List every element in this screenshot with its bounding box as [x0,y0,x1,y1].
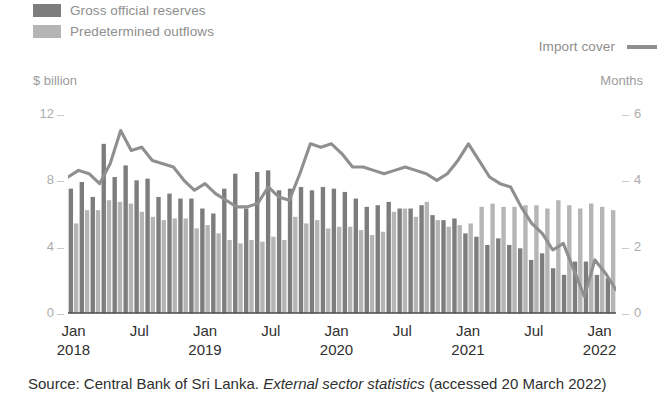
y-axis-right-tick-label: 2 [634,239,660,254]
bar-predetermined-outflows [162,220,166,313]
legend-label-predetermined-outflows: Predetermined outflows [70,24,214,39]
bar-gross-official-reserves [474,237,478,313]
bar-predetermined-outflows [556,200,560,313]
chart-legend: Gross official reserves Predetermined ou… [0,0,671,62]
bar-predetermined-outflows [74,223,78,313]
bar-gross-official-reserves [80,182,84,313]
y-axis-left-tick-mark [57,248,64,249]
bar-gross-official-reserves [452,218,456,313]
bar-gross-official-reserves [419,205,423,313]
y-axis-right-tick-mark [622,314,629,315]
legend-label-gross-official-reserves: Gross official reserves [70,3,206,18]
y-axis-left-title: $ billion [33,73,77,88]
bar-predetermined-outflows [490,204,494,313]
x-axis-tick-month: Jan [43,322,103,339]
bar-gross-official-reserves [91,197,95,313]
x-axis-tick-label: Jan2022 [570,322,630,358]
bar-gross-official-reserves [233,174,237,313]
bar-predetermined-outflows [447,227,451,313]
bar-gross-official-reserves [200,209,204,313]
y-axis-left-tick-label: 4 [28,239,54,254]
legend-item-import-cover: Import cover [539,39,657,54]
bar-gross-official-reserves [332,189,336,313]
legend-swatch-gross-official-reserves-icon [33,4,61,17]
bar-predetermined-outflows [271,237,275,313]
source-note: Source: Central Bank of Sri Lanka. Exter… [28,374,658,395]
bar-predetermined-outflows [523,205,527,313]
bar-predetermined-outflows [458,225,462,313]
bar-predetermined-outflows [249,240,253,313]
y-axis-right-tick-label: 6 [634,106,660,121]
x-axis-tick-label: Jul [241,322,301,339]
x-axis-tick-year: 2018 [43,341,103,358]
bar-gross-official-reserves [496,238,500,313]
bar-predetermined-outflows [96,210,100,313]
bar-gross-official-reserves [310,190,314,313]
y-axis-left-tick-label: 8 [28,172,54,187]
x-axis-tick-month: Jan [438,322,498,339]
bar-predetermined-outflows [611,210,615,313]
bar-gross-official-reserves [441,220,445,313]
bar-predetermined-outflows [326,228,330,313]
y-axis-right-tick-label: 0 [634,305,660,320]
x-axis-tick-month: Jan [570,322,630,339]
bar-predetermined-outflows [414,217,418,313]
chart-svg [68,112,616,314]
bar-predetermined-outflows [403,209,407,313]
y-axis-right-tick-mark [622,181,629,182]
bar-gross-official-reserves [562,275,566,313]
bar-gross-official-reserves [485,245,489,313]
bar-gross-official-reserves [288,189,292,313]
bar-gross-official-reserves [354,199,358,313]
bar-predetermined-outflows [238,243,242,313]
x-axis-tick-label: Jul [372,322,432,339]
bar-predetermined-outflows [129,204,133,313]
bar-predetermined-outflows [425,202,429,313]
bar-predetermined-outflows [392,212,396,313]
bar-gross-official-reserves [167,194,171,313]
bar-gross-official-reserves [277,190,281,313]
bar-predetermined-outflows [348,227,352,313]
bar-gross-official-reserves [102,144,106,313]
bar-gross-official-reserves [397,209,401,313]
legend-label-import-cover: Import cover [539,39,615,54]
chart-plot-area [68,112,616,314]
bar-predetermined-outflows [534,205,538,313]
y-axis-left-tick-mark [57,115,64,116]
bar-predetermined-outflows [468,223,472,313]
bar-predetermined-outflows [578,209,582,313]
bar-predetermined-outflows [337,227,341,313]
bar-predetermined-outflows [282,240,286,313]
bar-gross-official-reserves [529,260,533,313]
y-axis-right-tick-mark [622,115,629,116]
x-axis-tick-label: Jan2019 [175,322,235,358]
bar-predetermined-outflows [173,218,177,313]
bar-predetermined-outflows [140,212,144,313]
bar-gross-official-reserves [595,275,599,313]
legend-swatch-predetermined-outflows-icon [33,25,61,38]
bar-gross-official-reserves [551,268,555,313]
legend-item-gross-official-reserves: Gross official reserves [33,3,206,18]
y-axis-right-tick-label: 4 [634,172,660,187]
bar-predetermined-outflows [194,228,198,313]
bar-gross-official-reserves [518,248,522,313]
bar-predetermined-outflows [227,240,231,313]
bar-gross-official-reserves [255,172,259,313]
x-axis-tick-month: Jan [307,322,367,339]
x-axis-tick-label: Jul [504,322,564,339]
bar-gross-official-reserves [408,209,412,313]
bar-predetermined-outflows [501,207,505,313]
x-axis-tick-label: Jan2020 [307,322,367,358]
bar-predetermined-outflows [436,220,440,313]
legend-item-predetermined-outflows: Predetermined outflows [33,24,214,39]
bar-gross-official-reserves [321,187,325,313]
x-axis-tick-label: Jul [109,322,169,339]
bar-gross-official-reserves [244,209,248,313]
bar-gross-official-reserves [387,202,391,313]
bar-gross-official-reserves [145,179,149,313]
legend-swatch-import-cover-line-icon [627,45,657,49]
bar-predetermined-outflows [216,233,220,313]
bar-gross-official-reserves [69,189,73,313]
bar-predetermined-outflows [545,209,549,313]
x-axis-tick-year: 2020 [307,341,367,358]
